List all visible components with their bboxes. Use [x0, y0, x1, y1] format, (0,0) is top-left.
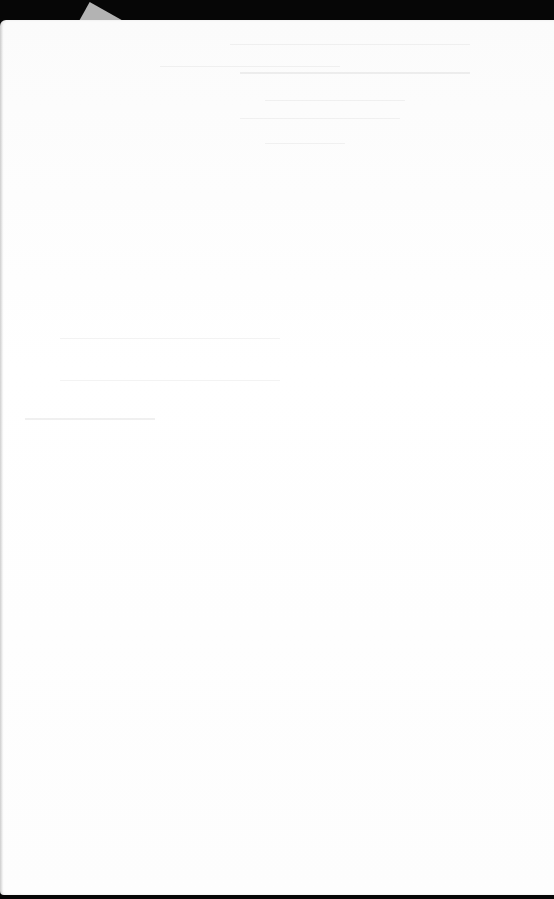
show-through-line: [240, 118, 400, 119]
show-through-line: [265, 143, 345, 144]
show-through-line: [60, 338, 280, 339]
show-through-line: [25, 418, 155, 420]
show-through-line: [230, 44, 470, 45]
blank-paper-page: [0, 20, 554, 895]
show-through-line: [160, 66, 340, 67]
show-through-line: [265, 100, 405, 101]
show-through-line: [60, 380, 280, 381]
show-through-line: [240, 72, 470, 74]
page-left-edge-shadow: [0, 20, 3, 895]
